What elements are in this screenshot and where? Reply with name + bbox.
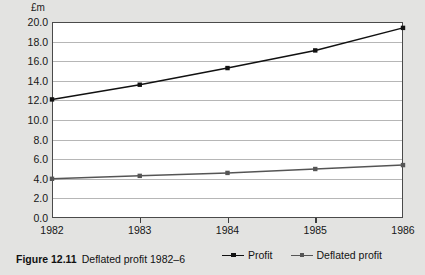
figure-page: £m 20.018.016.014.012.010.08.06.04.02.00…: [0, 0, 425, 275]
figure-caption-text: Deflated profit 1982–6: [77, 253, 185, 265]
legend-entry: Deflated profit: [291, 249, 382, 261]
data-point-marker: [225, 171, 229, 175]
data-point-marker: [50, 177, 54, 181]
figure-caption-label: Figure 12.11: [16, 253, 77, 265]
series-lines: [0, 0, 425, 243]
data-point-marker: [138, 83, 142, 87]
data-point-marker: [225, 66, 229, 70]
line-chart: £m 20.018.016.014.012.010.08.06.04.02.00…: [0, 0, 425, 243]
data-point-marker: [401, 26, 405, 30]
legend-entry: Profit: [222, 249, 273, 261]
chart-legend: ProfitDeflated profit: [222, 249, 382, 261]
data-point-marker: [138, 174, 142, 178]
legend-marker-icon: [291, 251, 313, 260]
legend-marker-icon: [222, 251, 244, 260]
figure-caption: Figure 12.11Deflated profit 1982–6: [16, 253, 185, 265]
legend-label: Deflated profit: [317, 249, 382, 261]
data-point-marker: [313, 48, 317, 52]
legend-label: Profit: [248, 249, 273, 261]
data-point-marker: [50, 97, 54, 101]
data-point-marker: [313, 167, 317, 171]
data-point-marker: [401, 163, 405, 167]
series-line: [52, 28, 403, 100]
